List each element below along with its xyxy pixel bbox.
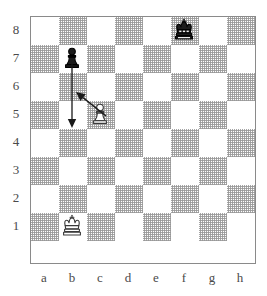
square-g3[interactable] [199,157,227,185]
square-b4[interactable] [59,129,87,157]
square-e8[interactable] [143,17,171,45]
file-label-h: h [226,270,254,286]
square-e6[interactable] [143,73,171,101]
square-a8[interactable] [31,17,59,45]
square-a3[interactable] [31,157,59,185]
square-g5[interactable] [199,101,227,129]
white-king-icon [58,212,86,240]
square-h1[interactable] [227,213,255,241]
square-b2[interactable] [59,185,87,213]
square-e5[interactable] [143,101,171,129]
square-h3[interactable] [227,157,255,185]
square-e7[interactable] [143,45,171,73]
white-king-b1[interactable] [58,212,86,240]
square-b6[interactable] [59,73,87,101]
square-d8[interactable] [115,17,143,45]
file-label-b: b [58,270,86,286]
chess-diagram: 87654321 abcdefgh [0,0,267,296]
rank-label-8: 8 [5,22,27,38]
square-g8[interactable] [199,17,227,45]
black-pawn-icon [58,44,86,72]
square-a1[interactable] [31,213,59,241]
square-b8[interactable] [59,17,87,45]
file-label-d: d [114,270,142,286]
square-a2[interactable] [31,185,59,213]
rank-label-6: 6 [5,78,27,94]
square-c6[interactable] [87,73,115,101]
rank-label-4: 4 [5,134,27,150]
square-a4[interactable] [31,129,59,157]
square-c3[interactable] [87,157,115,185]
white-pawn-c5[interactable] [86,100,114,128]
square-e4[interactable] [143,129,171,157]
square-c4[interactable] [87,129,115,157]
file-label-f: f [170,270,198,286]
file-label-e: e [142,270,170,286]
square-d3[interactable] [115,157,143,185]
square-a6[interactable] [31,73,59,101]
square-h5[interactable] [227,101,255,129]
square-c7[interactable] [87,45,115,73]
square-f2[interactable] [171,185,199,213]
square-d1[interactable] [115,213,143,241]
file-label-g: g [198,270,226,286]
square-g2[interactable] [199,185,227,213]
chessboard-wrapper [30,16,256,264]
square-c2[interactable] [87,185,115,213]
white-pawn-icon [86,100,114,128]
square-d4[interactable] [115,129,143,157]
file-label-a: a [30,270,58,286]
square-f7[interactable] [171,45,199,73]
square-a5[interactable] [31,101,59,129]
square-f3[interactable] [171,157,199,185]
square-c8[interactable] [87,17,115,45]
square-e3[interactable] [143,157,171,185]
square-b3[interactable] [59,157,87,185]
rank-label-7: 7 [5,50,27,66]
rank-label-2: 2 [5,190,27,206]
square-d7[interactable] [115,45,143,73]
square-h8[interactable] [227,17,255,45]
square-h7[interactable] [227,45,255,73]
square-f1[interactable] [171,213,199,241]
black-king-icon [170,16,198,44]
square-f5[interactable] [171,101,199,129]
square-g1[interactable] [199,213,227,241]
square-h2[interactable] [227,185,255,213]
square-f6[interactable] [171,73,199,101]
rank-label-3: 3 [5,162,27,178]
square-g4[interactable] [199,129,227,157]
square-d6[interactable] [115,73,143,101]
rank-label-1: 1 [5,218,27,234]
square-a7[interactable] [31,45,59,73]
black-pawn-b7[interactable] [58,44,86,72]
square-e1[interactable] [143,213,171,241]
square-f4[interactable] [171,129,199,157]
square-c1[interactable] [87,213,115,241]
square-h4[interactable] [227,129,255,157]
black-king-f8[interactable] [170,16,198,44]
square-d5[interactable] [115,101,143,129]
square-e2[interactable] [143,185,171,213]
file-label-c: c [86,270,114,286]
square-g7[interactable] [199,45,227,73]
square-g6[interactable] [199,73,227,101]
square-d2[interactable] [115,185,143,213]
rank-label-5: 5 [5,106,27,122]
square-b5[interactable] [59,101,87,129]
square-h6[interactable] [227,73,255,101]
